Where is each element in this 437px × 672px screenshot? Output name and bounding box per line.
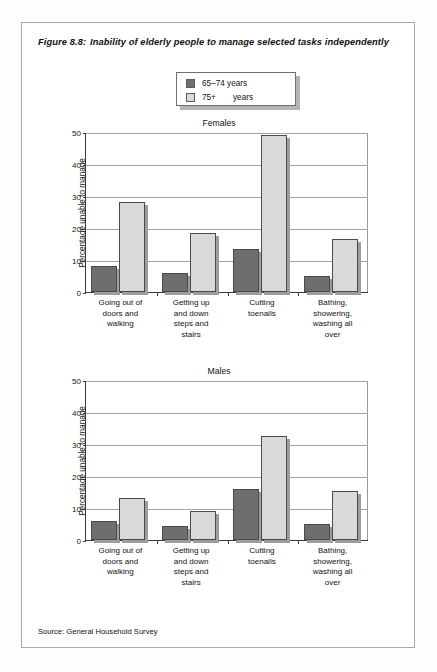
- category-label-line: showering,: [297, 309, 368, 320]
- bar-females-g2-s0: [233, 249, 259, 292]
- bar-females-g0-s0: [91, 266, 117, 292]
- y-tick-mark: [83, 197, 86, 198]
- bar-face: [91, 266, 117, 292]
- y-tick-mark: [83, 477, 86, 478]
- gridline: [86, 133, 368, 134]
- bar-females-g0-s1: [119, 202, 145, 292]
- category-label-line: Getting up: [156, 546, 227, 557]
- plot-area-females: Percentage unable to manage 01020304050: [85, 133, 368, 293]
- y-tick-mark: [83, 293, 86, 294]
- category-label-line: walking: [85, 567, 156, 578]
- y-tick-label: 20: [72, 473, 81, 482]
- y-tick-label: 0: [77, 289, 81, 298]
- bar-face: [190, 233, 216, 292]
- category-label-line: over: [297, 578, 368, 589]
- category-label-line: Bathing,: [297, 298, 368, 309]
- bars-layer-females: [86, 133, 368, 292]
- category-label-line: walking: [85, 319, 156, 330]
- category-label-line: Going out of: [85, 546, 156, 557]
- category-label-line: Cutting: [227, 546, 298, 557]
- y-tick-mark: [83, 509, 86, 510]
- category-label: Cuttingtoenails: [227, 546, 298, 567]
- bar-face: [332, 491, 358, 540]
- legend-label-75-plus: 75+years: [202, 93, 253, 102]
- category-label-line: Bathing,: [297, 546, 368, 557]
- bar-face: [91, 521, 117, 540]
- y-tick-label: 20: [72, 225, 81, 234]
- bar-face: [233, 489, 259, 540]
- category-label: Going out ofdoors andwalking: [85, 298, 156, 330]
- category-label-line: Going out of: [85, 298, 156, 309]
- bar-face: [162, 273, 188, 292]
- figure-number: Figure 8.8:: [38, 37, 90, 47]
- y-tick-label: 0: [77, 537, 81, 546]
- bar-face: [304, 276, 330, 292]
- y-tick-mark: [83, 445, 86, 446]
- bar-males-g1-s1: [190, 511, 216, 540]
- category-label-line: toenails: [227, 557, 298, 568]
- category-label-line: and down: [156, 309, 227, 320]
- y-tick-label: 10: [72, 505, 81, 514]
- figure-caption: Figure 8.8:Inability of elderly people t…: [38, 37, 389, 47]
- bar-males-g2-s1: [261, 436, 287, 540]
- bar-males-g3-s1: [332, 491, 358, 540]
- bar-face: [261, 436, 287, 540]
- plot-canvas-males: 01020304050: [85, 381, 368, 541]
- legend-swatch-65-74: [186, 79, 195, 88]
- category-label: Bathing,showering,washing allover: [297, 298, 368, 340]
- category-label-line: steps and: [156, 567, 227, 578]
- legend-item-65-74: 65–74 years: [186, 77, 247, 90]
- y-tick-label: 30: [72, 441, 81, 450]
- category-label: Bathing,showering,washing allover: [297, 546, 368, 588]
- bars-layer-males: [86, 381, 368, 540]
- bar-males-g3-s0: [304, 524, 330, 540]
- y-tick-label: 50: [72, 129, 81, 138]
- gridline: [86, 413, 368, 414]
- gridline: [86, 381, 368, 382]
- category-label: Cuttingtoenails: [227, 298, 298, 319]
- chart-legend: 65–74 years 75+years: [176, 72, 300, 110]
- bar-face: [162, 526, 188, 540]
- gridline: [86, 477, 368, 478]
- plot-canvas-females: 01020304050: [85, 133, 368, 293]
- category-label-line: and down: [156, 557, 227, 568]
- bar-females-g3-s0: [304, 276, 330, 292]
- category-labels-females: Going out ofdoors andwalkingGetting upan…: [85, 298, 368, 360]
- y-tick-mark: [83, 541, 86, 542]
- figure-page: Figure 8.8:Inability of elderly people t…: [0, 0, 437, 672]
- gridline: [86, 197, 368, 198]
- legend-box: 65–74 years 75+years: [176, 72, 296, 106]
- x-tick-mark: [157, 292, 158, 296]
- category-label-line: washing all: [297, 567, 368, 578]
- y-tick-label: 40: [72, 161, 81, 170]
- category-label-line: stairs: [156, 578, 227, 589]
- y-tick-mark: [83, 413, 86, 414]
- legend-swatch-75-plus: [186, 93, 195, 102]
- bar-males-g0-s0: [91, 521, 117, 540]
- chart-males: Males Percentage unable to manage 010203…: [22, 366, 416, 616]
- plot-area-males: Percentage unable to manage 01020304050: [85, 381, 368, 541]
- category-label-line: doors and: [85, 309, 156, 320]
- bar-females-g1-s0: [162, 273, 188, 292]
- y-tick-mark: [83, 133, 86, 134]
- bar-face: [332, 239, 358, 292]
- category-label: Getting upand downsteps andstairs: [156, 546, 227, 588]
- x-tick-mark: [228, 292, 229, 296]
- category-label-line: steps and: [156, 319, 227, 330]
- figure-title-text: Inability of elderly people to manage se…: [90, 37, 389, 47]
- y-tick-mark: [83, 229, 86, 230]
- category-label-line: Cutting: [227, 298, 298, 309]
- y-tick-label: 30: [72, 193, 81, 202]
- bar-face: [304, 524, 330, 540]
- y-tick-label: 10: [72, 257, 81, 266]
- bar-females-g2-s1: [261, 135, 287, 292]
- category-label-line: toenails: [227, 309, 298, 320]
- chart-title-females: Females: [22, 118, 416, 128]
- bar-face: [119, 202, 145, 292]
- bar-males-g1-s0: [162, 526, 188, 540]
- x-tick-mark: [157, 540, 158, 544]
- bar-females-g3-s1: [332, 239, 358, 292]
- y-tick-mark: [83, 261, 86, 262]
- gridline: [86, 445, 368, 446]
- chart-title-males: Males: [22, 366, 416, 376]
